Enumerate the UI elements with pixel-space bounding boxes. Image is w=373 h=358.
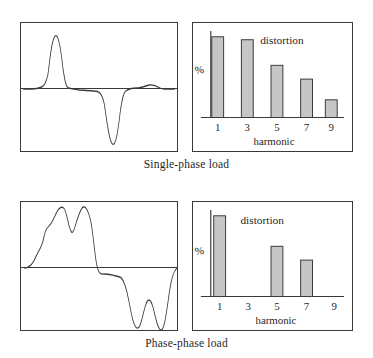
- tick-label-5: 5: [274, 300, 279, 312]
- bar-h5: [271, 246, 283, 296]
- waveform-trace: [25, 207, 177, 330]
- bar-chart-box-phase-phase: distortion % 1 3 5 7 9 harmonic: [192, 201, 353, 331]
- waveform-phase-phase: [21, 202, 177, 330]
- bar-h7: [301, 260, 313, 296]
- bar-h9: [325, 100, 337, 118]
- bar-h7: [301, 79, 313, 117]
- percent-axis-label: %: [194, 63, 205, 76]
- waveform-box-single-phase: [20, 22, 178, 152]
- bar-h5: [271, 65, 283, 117]
- bar-h3: [241, 40, 253, 118]
- tick-label-5: 5: [274, 121, 279, 133]
- tick-label-1: 1: [217, 300, 222, 312]
- tick-label-9: 9: [332, 300, 337, 312]
- harmonic-axis-label: harmonic: [253, 135, 294, 147]
- bar-chart-single-phase: distortion % 1 3 5 7 9 harmonic: [193, 23, 352, 151]
- tick-label-7: 7: [304, 300, 310, 312]
- tick-label-3: 3: [245, 121, 250, 133]
- waveform-single-phase: [21, 23, 177, 151]
- distortion-label: distortion: [260, 34, 304, 46]
- harmonic-distortion-figure: distortion % 1 3 5 7 9 harmonic Single-p…: [0, 0, 373, 358]
- tick-label-3: 3: [246, 300, 251, 312]
- distortion-label: distortion: [240, 214, 284, 226]
- bar-chart-box-single-phase: distortion % 1 3 5 7 9 harmonic: [192, 22, 353, 152]
- tick-label-9: 9: [329, 121, 334, 133]
- panel-phase-phase: distortion % 1 3 5 7 9 harmonic Phase-ph…: [0, 179, 373, 358]
- tick-label-7: 7: [304, 121, 310, 133]
- bar-chart-phase-phase: distortion % 1 3 5 7 9 harmonic: [193, 202, 352, 330]
- bar-h1: [214, 216, 226, 297]
- panel-single-phase: distortion % 1 3 5 7 9 harmonic Single-p…: [0, 0, 373, 179]
- caption-phase-phase: Phase-phase load: [0, 337, 373, 349]
- waveform-trace: [23, 36, 174, 145]
- harmonic-axis-label: harmonic: [255, 314, 296, 326]
- caption-single-phase: Single-phase load: [0, 158, 373, 170]
- waveform-box-phase-phase: [20, 201, 178, 331]
- percent-axis-label: %: [194, 244, 205, 257]
- bar-h1: [212, 37, 224, 118]
- tick-label-1: 1: [215, 121, 220, 133]
